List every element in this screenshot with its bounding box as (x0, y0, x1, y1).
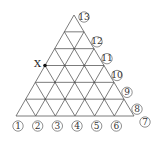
left-parallel-grid-line (36, 32, 84, 116)
label-13: 13 (78, 12, 90, 22)
label-11: 11 (101, 53, 112, 63)
lattice-vertex-dot (74, 81, 76, 83)
right-parallel-grid-line (64, 32, 114, 116)
label-7: 7 (142, 117, 148, 127)
label-9: 9 (124, 87, 130, 97)
lattice-vertex-dot (54, 81, 56, 83)
label-5: 5 (94, 121, 100, 131)
label-12: 12 (91, 36, 102, 46)
circled-number-labels: 12345678910111213 (13, 12, 150, 132)
label-8: 8 (134, 104, 140, 114)
lattice-vertex-dot (64, 65, 66, 67)
label-1: 1 (15, 121, 21, 131)
lattice-vertex-dot (84, 98, 86, 100)
lattice-vertex-dot (64, 98, 66, 100)
point-x-label: X (34, 58, 42, 69)
triangular-lattice-diagram: X 12345678910111213 (0, 0, 162, 141)
point-x-marker (43, 64, 47, 68)
lattice-vertex-dot (83, 65, 85, 67)
label-2: 2 (35, 121, 41, 131)
lattice-vertex-dot (44, 98, 46, 100)
lattice-vertex-dot (73, 48, 75, 50)
lattice-vertex-dot (93, 81, 95, 83)
label-3: 3 (54, 121, 60, 131)
right-parallel-grid-line (26, 99, 36, 116)
lattice-vertex-dot (103, 98, 105, 100)
left-parallel-grid-line (114, 99, 124, 116)
label-4: 4 (74, 121, 80, 131)
label-6: 6 (113, 121, 119, 131)
label-10: 10 (111, 70, 123, 80)
